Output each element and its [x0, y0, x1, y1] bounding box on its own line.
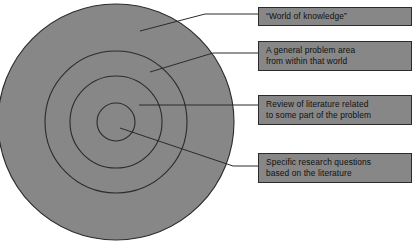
world-of-knowledge-ring	[0, 4, 234, 240]
callout-general-problem-area: A general problem area from within that …	[258, 41, 412, 71]
callout-literature-review: Review of literature related to some par…	[258, 95, 412, 125]
callout-review-line-1: Review of literature related	[266, 99, 411, 110]
callout-specific-line-2: based on the literature	[266, 168, 411, 179]
diagram-canvas: “World of knowledge” A general problem a…	[0, 0, 415, 243]
callout-world-of-knowledge: “World of knowledge”	[258, 7, 412, 26]
callout-world-line-1: “World of knowledge”	[266, 11, 411, 22]
callout-problem-line-1: A general problem area	[266, 45, 411, 56]
callout-specific-line-1: Specific research questions	[266, 157, 411, 168]
callout-specific-research-questions: Specific research questions based on the…	[258, 153, 412, 183]
callout-problem-line-2: from within that world	[266, 56, 411, 67]
callout-review-line-2: to some part of the problem	[266, 110, 411, 121]
